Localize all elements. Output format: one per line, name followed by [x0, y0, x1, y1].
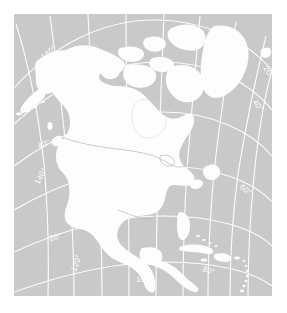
- map-figure: 180° 160° 140° 120° 100° 80° 60° 40° 20°…: [0, 0, 287, 313]
- lesser-antilles-group: [240, 260, 248, 293]
- trinidad-shape: [240, 290, 244, 293]
- label-lon-120: 120°: [69, 253, 83, 272]
- arctic-island-b: [118, 46, 144, 61]
- map-plot-area[interactable]: 180° 160° 140° 120° 100° 80° 60° 40° 20°…: [14, 14, 272, 296]
- cuba-shape: [179, 245, 213, 255]
- map-canvas: 180° 160° 140° 120° 100° 80° 60° 40° 20°…: [14, 14, 272, 296]
- haida-gwaii-shape: [47, 122, 52, 130]
- aleutian-isle-1: [16, 113, 22, 116]
- lesser-antilles-3: [246, 270, 249, 272]
- puerto-rico-shape: [234, 257, 240, 260]
- label-lon-20: 20°: [261, 64, 272, 80]
- lesser-antilles-6: [243, 285, 246, 288]
- jamaica-shape: [201, 259, 208, 262]
- lesser-antilles-5: [245, 280, 248, 283]
- central-america-shape: [152, 261, 198, 292]
- lesser-antilles-4: [246, 275, 249, 277]
- landmasses: [16, 25, 271, 293]
- hispaniola-shape: [214, 253, 232, 262]
- bahamas-1: [196, 235, 200, 237]
- greenland-shape: [201, 26, 249, 99]
- aleutian-isle-4: [41, 101, 45, 103]
- label-lat-20: 20°: [48, 231, 63, 243]
- ellesmere-island-shape: [168, 25, 206, 51]
- label-lon-140: 140°: [33, 166, 49, 186]
- label-lon-80: 80°: [201, 264, 216, 276]
- arctic-island-a: [143, 36, 166, 51]
- lesser-antilles-1: [243, 260, 246, 262]
- bahamas-3: [208, 242, 211, 244]
- baffin-island-shape: [166, 65, 204, 102]
- aleutian-isle-2: [25, 110, 30, 112]
- label-lat-40: 40°: [36, 138, 51, 151]
- meridian-80: [183, 16, 200, 296]
- newfoundland-shape: [203, 164, 220, 180]
- iceland-shape: [261, 47, 272, 57]
- florida-peninsula-shape: [177, 212, 190, 240]
- label-lon-60: 60°: [238, 182, 254, 197]
- bahamas-2: [202, 239, 206, 241]
- bahamas-4: [215, 245, 218, 247]
- lesser-antilles-2: [245, 265, 248, 267]
- label-lon-100: 100°: [136, 275, 153, 284]
- aleutian-isle-3: [33, 106, 37, 108]
